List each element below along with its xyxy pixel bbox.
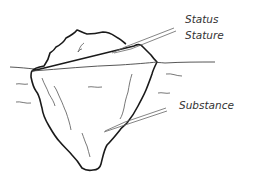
iceberg-diagram: Status Stature Substance — [0, 0, 253, 182]
water-ripple — [158, 93, 170, 94]
iceberg-outline — [31, 30, 157, 170]
iceberg-illustration — [0, 0, 253, 182]
water-ripple — [166, 74, 182, 76]
water-ripple — [16, 84, 28, 85]
label-status: Status — [185, 14, 218, 25]
label-stature: Stature — [185, 30, 224, 41]
water-ripple — [16, 102, 31, 103]
label-substance: Substance — [179, 100, 234, 111]
